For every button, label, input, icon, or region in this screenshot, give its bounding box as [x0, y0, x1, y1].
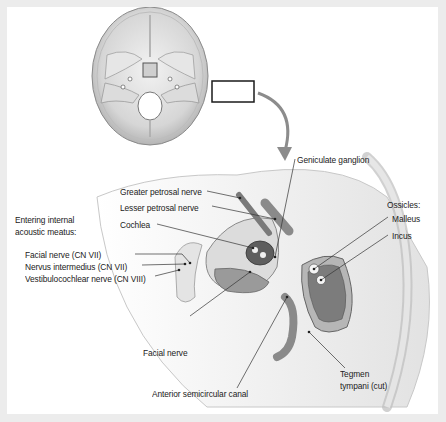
- label-entering-line1: Entering internal: [15, 214, 74, 225]
- label-vestibulocochlear: Vestibulocochlear nerve (CN VIII): [25, 273, 146, 284]
- anatomy-figure: Geniculate ganglion Greater petrosal ner…: [7, 7, 438, 414]
- illustration: [7, 7, 438, 414]
- label-facial-nerve: Facial nerve: [143, 347, 187, 358]
- skull-base: [92, 7, 254, 145]
- label-facial-nerve-cn7: Facial nerve (CN VII): [25, 249, 101, 260]
- label-malleus: Malleus: [392, 213, 420, 224]
- label-greater-petrosal-nerve: Greater petrosal nerve: [120, 186, 202, 197]
- label-tegmen-line2: tympani (cut): [340, 380, 387, 391]
- label-geniculate-ganglion: Geniculate ganglion: [297, 154, 369, 165]
- label-nervus-intermedius: Nervus intermedius (CN VII): [25, 261, 127, 272]
- label-lesser-petrosal-nerve: Lesser petrosal nerve: [120, 202, 199, 213]
- label-cochlea: Cochlea: [120, 219, 150, 230]
- label-ossicles: Ossicles:: [387, 199, 420, 210]
- label-entering-line2: acoustic meatus:: [15, 226, 76, 237]
- zoom-arrow: [258, 93, 292, 161]
- label-tegmen-line1: Tegmen: [340, 368, 369, 379]
- label-anterior-semicircular-canal: Anterior semicircular canal: [152, 388, 248, 399]
- region-highlight-box: [212, 81, 254, 102]
- label-incus: Incus: [392, 230, 412, 241]
